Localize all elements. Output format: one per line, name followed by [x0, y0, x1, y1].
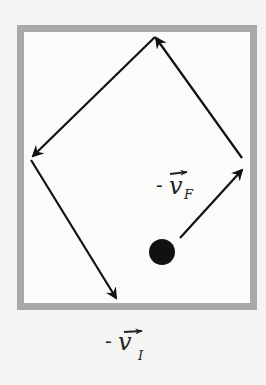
- final-velocity-minus: -: [156, 173, 163, 197]
- final-velocity-symbol: v: [169, 172, 183, 200]
- ball: [149, 239, 175, 265]
- initial-velocity-subscript: I: [137, 348, 144, 363]
- ball-bounce-diagram: - v F - v I: [0, 0, 266, 385]
- box-container: [21, 29, 254, 307]
- diagram-svg: - v F - v I: [0, 0, 266, 385]
- initial-velocity-label: - v I: [105, 328, 144, 363]
- initial-velocity-minus: -: [105, 329, 112, 353]
- initial-velocity-vector-arrow-icon: [124, 331, 142, 332]
- final-velocity-subscript: F: [183, 187, 194, 202]
